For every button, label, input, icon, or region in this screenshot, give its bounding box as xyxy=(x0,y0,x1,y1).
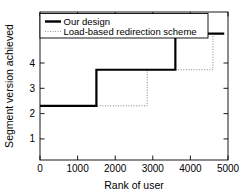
x-tick-label: 0 xyxy=(37,163,43,174)
x-axis-title: Rank of user xyxy=(104,179,164,191)
x-tick-label: 4000 xyxy=(179,163,202,174)
x-axis-tick-labels: 0 1000 2000 3000 4000 5000 xyxy=(37,163,239,174)
y-tick-label: 1 xyxy=(29,133,35,144)
x-tick-label: 1000 xyxy=(66,163,89,174)
legend: Our design Load-based redirection scheme xyxy=(40,14,208,39)
y-tick-label: 3 xyxy=(29,83,35,94)
y-tick-label: 4 xyxy=(29,58,35,69)
x-tick-label: 2000 xyxy=(104,163,127,174)
y-axis-tick-labels: 1 2 3 4 xyxy=(29,58,35,145)
chart-figure: 0 1000 2000 3000 4000 5000 1 2 3 4 Rank … xyxy=(0,0,245,195)
step-chart: 0 1000 2000 3000 4000 5000 1 2 3 4 Rank … xyxy=(0,0,245,195)
y-axis-title: Segment version achieved xyxy=(3,24,15,148)
y-tick-label: 2 xyxy=(29,108,35,119)
x-tick-label: 5000 xyxy=(217,163,240,174)
x-tick-label: 3000 xyxy=(142,163,165,174)
legend-label-load-based-redirection-scheme: Load-based redirection scheme xyxy=(64,26,197,37)
